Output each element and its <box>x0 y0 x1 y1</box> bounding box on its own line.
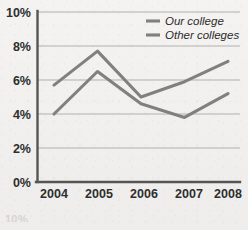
x-tick-label: 2008 <box>214 187 242 201</box>
y-tick-label: 2% <box>13 142 31 156</box>
legend-label-our-college[interactable]: Our college <box>165 15 224 27</box>
y-tick-label: 4% <box>13 108 31 122</box>
chart-legend: Our college Other colleges <box>146 15 239 41</box>
x-tick-label: 2005 <box>85 187 113 201</box>
y-axis-ticks: 10% 8% 6% 4% 2% 0% <box>6 6 31 190</box>
series-line-other-colleges[interactable] <box>54 72 228 118</box>
legend-label-other-colleges[interactable]: Other colleges <box>165 29 239 41</box>
x-tick-label: 2006 <box>130 187 158 201</box>
cropped-text-fragment: 10% <box>5 214 28 222</box>
chart-canvas: 10% 8% 6% 4% 2% 0% 2004 2005 2006 2007 2… <box>0 0 248 230</box>
x-tick-label: 2004 <box>40 187 68 201</box>
y-tick-label: 0% <box>13 176 31 190</box>
y-tick-label: 8% <box>13 40 31 54</box>
x-tick-label: 2007 <box>175 187 203 201</box>
data-series-group <box>54 51 228 117</box>
y-tick-label: 10% <box>6 6 31 20</box>
y-tick-label: 6% <box>13 74 31 88</box>
line-chart: 10% 8% 6% 4% 2% 0% 2004 2005 2006 2007 2… <box>0 0 248 230</box>
x-axis-ticks: 2004 2005 2006 2007 2008 <box>40 187 242 201</box>
